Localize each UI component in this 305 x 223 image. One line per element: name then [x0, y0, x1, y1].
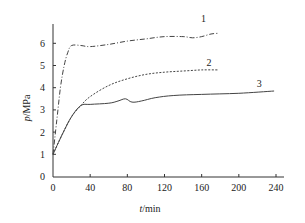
pressure-time-chart: 04080120160200240 0123456 123 t/min p/MP… — [0, 0, 305, 223]
curve-labels: 123 — [201, 13, 262, 88]
y-tick-label: 4 — [40, 82, 45, 93]
curve-label-2: 2 — [207, 57, 212, 68]
y-tick-label: 3 — [40, 104, 45, 115]
y-axis-title: p/MPa — [21, 94, 32, 122]
curve-label-3: 3 — [257, 78, 262, 89]
curve-label-1: 1 — [201, 13, 206, 24]
x-tick-label: 0 — [51, 182, 56, 193]
y-tick-label: 0 — [40, 171, 45, 182]
x-tick-label: 120 — [157, 182, 172, 193]
curves — [53, 33, 274, 154]
x-tick-label: 40 — [85, 182, 95, 193]
x-tick-label: 200 — [231, 182, 246, 193]
y-tick-label: 2 — [40, 127, 45, 138]
x-tick-label: 160 — [194, 182, 209, 193]
y-tick-label: 5 — [40, 60, 45, 71]
x-tick-label: 80 — [122, 182, 132, 193]
y-tick-label: 1 — [40, 149, 45, 160]
x-tick-label: 240 — [269, 182, 284, 193]
curve-2 — [53, 70, 218, 154]
curve-1 — [53, 33, 218, 154]
y-tick-label: 6 — [40, 38, 45, 49]
y-ticks: 0123456 — [40, 38, 56, 182]
x-axis-title: t/min — [139, 203, 160, 214]
